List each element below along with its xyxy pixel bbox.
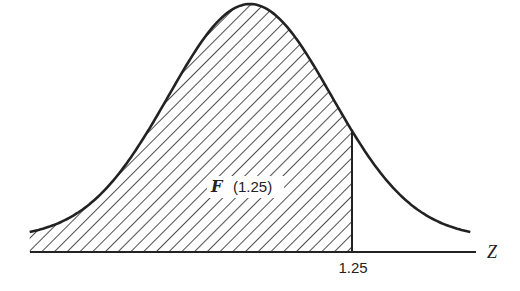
tick-label-1-25: 1.25: [338, 259, 367, 276]
annotation-argument: (1.25): [233, 178, 272, 195]
area-annotation: F (1.25): [207, 176, 284, 198]
normal-curve-chart: 1.25 Z F (1.25): [0, 0, 520, 291]
x-axis-label: Z: [487, 242, 498, 262]
annotation-function: F: [210, 177, 224, 196]
shaded-area-f: [30, 4, 352, 252]
